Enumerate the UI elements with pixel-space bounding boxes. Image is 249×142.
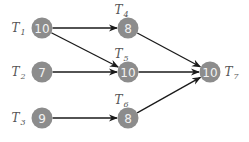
task-label: T5	[115, 47, 129, 63]
edge-t1-to-t5	[51, 33, 118, 67]
node-weight: 9	[38, 112, 46, 126]
task-label: T1	[12, 21, 26, 37]
task-label: T3	[12, 111, 26, 127]
edge-t4-to-t7	[137, 33, 200, 67]
task-node-t2: 7T2	[12, 62, 53, 83]
edge-t6-to-t7	[137, 77, 200, 112]
task-node-t1: 10T1	[12, 18, 53, 39]
node-weight: 10	[120, 66, 135, 80]
node-weight: 10	[34, 22, 49, 36]
task-label: T7	[225, 65, 240, 81]
node-weight: 8	[124, 112, 132, 126]
node-weight: 7	[38, 66, 46, 80]
task-node-t4: 8T4	[115, 3, 139, 39]
task-node-t5: 10T5	[115, 47, 139, 83]
task-label: T4	[115, 3, 129, 19]
nodes-layer: 10T17T29T38T410T58T610T7	[12, 3, 240, 129]
task-label: T2	[12, 65, 26, 81]
task-node-t7: 10T7	[200, 62, 240, 83]
task-label: T6	[115, 93, 129, 109]
node-weight: 10	[202, 66, 217, 80]
task-graph: 10T17T29T38T410T58T610T7	[0, 0, 249, 142]
task-node-t3: 9T3	[12, 108, 53, 129]
task-node-t6: 8T6	[115, 93, 139, 129]
node-weight: 8	[124, 22, 132, 36]
